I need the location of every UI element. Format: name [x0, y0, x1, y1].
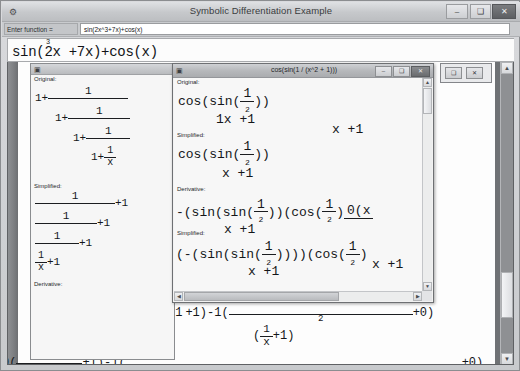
lo-d1-lead: 1+ [55, 112, 68, 124]
child-vertical-scrollbar[interactable]: ▲ ▼ [422, 78, 432, 291]
scroll-left-arrow-icon[interactable]: ◀ [174, 292, 183, 301]
child-right-restore-button[interactable]: ❑ [445, 67, 462, 79]
ls-d4: x [35, 263, 47, 274]
bfi-open: ( [253, 329, 260, 343]
lo-n3: 1 [86, 126, 130, 139]
child-vscroll-thumb[interactable] [423, 88, 432, 114]
lo-d3-lead: 1+ [91, 151, 104, 163]
ls-level4: 1x+1 [35, 251, 60, 273]
main-scroll-down-arrow-icon[interactable]: ▼ [501, 353, 513, 365]
lo-f4: 1x [104, 146, 116, 168]
bf2-lead: 0( [7, 356, 16, 365]
scroll-down-arrow-icon[interactable]: ▼ [423, 282, 432, 291]
mo-den-text: 1x +1 [216, 112, 422, 127]
function-label: Enter function = [4, 23, 78, 35]
mid-simplified-label: Simplified: [174, 132, 422, 138]
lo-n2: 1 [68, 106, 130, 119]
bfi-fraction: 1x [260, 324, 273, 348]
md-frac3: 0(x [344, 204, 373, 219]
m2-post: ) [360, 247, 368, 262]
ls-t4: +1 [47, 256, 60, 268]
bfi-num: 1 [260, 324, 273, 337]
bottom-formula-inner-frac: (1x+1) [253, 324, 294, 348]
mid-original-expression: cos(sin(12)) 1x +1 [174, 87, 422, 130]
ls-f4: 1x [35, 251, 47, 273]
child-window-active[interactable]: ▣ cos(sin(1 / (x^2 + 1))) – ❑ ✕ Original… [172, 63, 434, 303]
bf1-tail: +0) [413, 306, 435, 320]
formula-display-strip: 3 sin(2x +7x)+cos(x) [7, 38, 514, 62]
lo-n1: 1 [48, 86, 128, 99]
function-toolbar: Enter function = sin(2x^3+7x)+cos(x) [2, 22, 520, 37]
md-post: ) [336, 204, 344, 219]
ls-t1: +1 [115, 197, 128, 209]
ls-t3: +1 [79, 237, 92, 249]
bf2-num2 [126, 352, 462, 365]
lo-lead: 1+ [35, 92, 48, 104]
function-input[interactable]: sin(2x^3+7x)+cos(x) [80, 23, 510, 35]
window-titlebar[interactable]: ⚙ Symbolic Differentiation Example – ❑ ✕ [2, 2, 520, 22]
sheet-left-rail [8, 62, 18, 365]
bf2-den [16, 364, 82, 365]
main-scroll-up-arrow-icon[interactable]: ▲ [501, 62, 513, 74]
child-window-left[interactable]: ▣ Original: 1+1 1+1 1+1 [30, 63, 175, 360]
m2-pre: (-(sin(sin( [176, 247, 262, 262]
mid-second-simplified-label: Simplified: [174, 230, 205, 236]
ms-pre: cos(sin( [178, 147, 240, 162]
child-window-right[interactable]: ❑ ✕ [440, 63, 492, 83]
mdi-client-area: 0(1x+1+1)-1( 2+0) 0(1 +1)-1( +0) (1x+1) … [7, 62, 514, 365]
ms-den-text: x +1 [222, 166, 422, 181]
lo-n4: 1 [104, 146, 116, 158]
ls-n1: 1 [35, 191, 115, 204]
document-sheet: 0(1x+1+1)-1( 2+0) 0(1 +1)-1( +0) (1x+1) … [8, 62, 495, 365]
md-tail-num: 0(x [344, 204, 373, 219]
left-simplified-expression: 1 +1 1 +1 1 +1 1x+1 [35, 191, 128, 215]
maximize-button[interactable]: ❑ [470, 4, 491, 19]
left-simplified-label: Simplified: [31, 183, 62, 189]
mid-second-simplified-expression: (-(sin(sin(12))))(cos(12) x +1 x +1 [176, 240, 367, 283]
ms-num: 1 [240, 140, 254, 155]
close-button[interactable]: ✕ [492, 4, 516, 19]
child-hscroll-thumb[interactable] [184, 292, 339, 301]
scrollbar-corner [422, 291, 432, 301]
md-num1: 1 [254, 198, 268, 213]
lo-d2-lead: 1+ [73, 132, 86, 144]
mid-derivative-label: Derivative: [174, 186, 422, 192]
bfi-den: x [260, 337, 273, 349]
lo-d4: x [104, 158, 116, 169]
ms-post: )) [254, 147, 270, 162]
scroll-right-arrow-icon[interactable]: ▶ [413, 292, 422, 301]
child-horizontal-scrollbar[interactable]: ◀ ▶ [174, 291, 422, 301]
mid-simplified-expression: cos(sin(12)) x +1 [174, 140, 422, 183]
application-window: ⚙ Symbolic Differentiation Example – ❑ ✕… [0, 0, 520, 371]
main-vertical-scrollbar[interactable]: ▲ ▼ [500, 62, 513, 365]
ms-frac: 12 [240, 140, 254, 168]
scroll-up-arrow-icon[interactable]: ▲ [423, 78, 432, 87]
child-left-body: Original: 1+1 1+1 1+1 1+1x [31, 75, 174, 359]
mo-post: )) [254, 94, 270, 109]
bf1-num2 [229, 301, 413, 315]
bf2-tail: +0) [462, 356, 484, 365]
mo-frac: 12 [240, 87, 254, 115]
child-mid-body: Original: cos(sin(12)) 1x +1 Simplified:… [174, 78, 422, 291]
m2-mid: ))))(cos( [276, 247, 346, 262]
child-minimize-button[interactable]: – [375, 66, 392, 77]
main-vscroll-thumb[interactable] [501, 272, 513, 318]
md-num2: 1 [322, 198, 336, 213]
bf2-fraction-2 [126, 352, 462, 365]
ls-n3: 1 [35, 231, 79, 244]
lo-level4: 1+1x [91, 146, 116, 168]
child-right-close-button[interactable]: ✕ [466, 67, 483, 79]
m2-num2: 1 [346, 240, 360, 255]
bf1-fraction-2: 2 [229, 301, 413, 324]
window-title: Symbolic Differentiation Example [2, 5, 520, 16]
child-left-titlebar[interactable]: ▣ [31, 64, 174, 75]
minimize-button[interactable]: – [446, 4, 468, 19]
left-original-label: Original: [31, 76, 174, 82]
child-close-button[interactable]: ✕ [411, 66, 430, 77]
md-pre: -(sin(sin( [176, 204, 254, 219]
md-den1-text: x +1 [224, 222, 422, 237]
m2-num1: 1 [262, 240, 276, 255]
md-den2-text: x +1 [332, 122, 363, 137]
child-maximize-button[interactable]: ❑ [393, 66, 410, 77]
child-mid-titlebar[interactable]: ▣ cos(sin(1 / (x^2 + 1))) – ❑ ✕ [173, 64, 433, 78]
